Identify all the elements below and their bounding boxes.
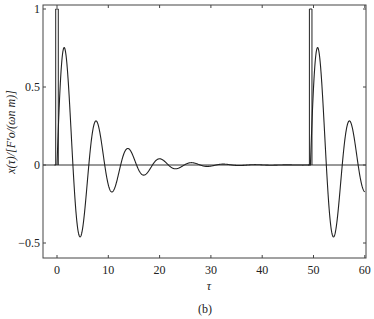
response-curve — [57, 48, 365, 237]
response-chart: 0102030405060 −0.500.51 τ x(τ)/[F′o/(ωn … — [0, 0, 374, 319]
x-tick-label: 60 — [359, 263, 371, 277]
plot-area — [43, 9, 366, 237]
axes-frame — [43, 5, 366, 258]
x-tick-label: 30 — [205, 263, 217, 277]
y-tick-label: 0 — [34, 158, 40, 172]
y-axis-label: x(τ)/[F′o/(ωn m)] — [4, 90, 18, 175]
y-tick-label: 0.5 — [25, 80, 40, 94]
x-tick-label: 50 — [308, 263, 320, 277]
x-tick-label: 20 — [154, 263, 166, 277]
x-axis-label: τ — [207, 279, 212, 293]
figure-caption: (b) — [198, 302, 212, 316]
x-tick-label: 10 — [102, 263, 114, 277]
y-tick-label: 1 — [34, 2, 40, 16]
y-tick-label: −0.5 — [18, 236, 40, 250]
x-tick-label: 0 — [54, 263, 60, 277]
x-tick-label: 40 — [256, 263, 268, 277]
